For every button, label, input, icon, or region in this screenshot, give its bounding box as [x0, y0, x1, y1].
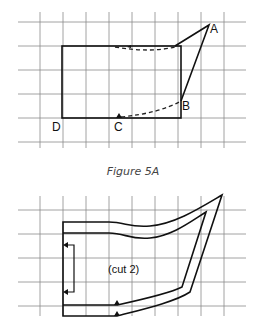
- grid-bottom: [18, 196, 246, 316]
- bracket-arrow-bottom: [63, 289, 68, 295]
- cut-note: (cut 2): [108, 263, 139, 275]
- rectangle-outline: [62, 46, 181, 118]
- label-a: A: [210, 22, 218, 36]
- notch-inner: [114, 300, 120, 305]
- grainline-bracket: [66, 245, 74, 292]
- notch-outer: [114, 311, 120, 316]
- label-d: D: [52, 120, 61, 134]
- label-b: B: [182, 99, 190, 113]
- pattern-outer-outline: [63, 195, 222, 316]
- figure-5a-top: A B C D: [0, 0, 267, 160]
- label-c: C: [114, 120, 123, 134]
- caption-figure-5a: Figure 5A: [107, 165, 160, 178]
- bottom-dashed-curve: [121, 101, 181, 117]
- pattern-inner-outline: [63, 212, 206, 305]
- notch-c: [116, 113, 122, 118]
- point-a-lines: [175, 25, 209, 101]
- bracket-arrow-top: [63, 242, 68, 248]
- top-dashed-curve: [115, 47, 175, 50]
